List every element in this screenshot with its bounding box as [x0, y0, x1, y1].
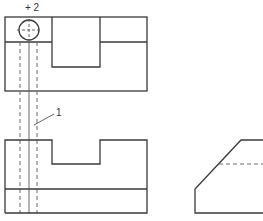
top-view: + 2 [5, 2, 147, 91]
leader-1: 1 [34, 107, 62, 125]
front-view-outline [5, 140, 147, 213]
marker-label-2: + 2 [25, 2, 40, 13]
top-view-outline [5, 17, 147, 91]
side-view-outline [195, 140, 263, 213]
side-view [195, 140, 263, 213]
leader-label-1: 1 [56, 107, 62, 118]
orthographic-drawing: + 2 1 [0, 0, 263, 221]
front-view [5, 140, 147, 213]
top-view-notch [52, 17, 100, 67]
hole-projection [20, 42, 37, 213]
